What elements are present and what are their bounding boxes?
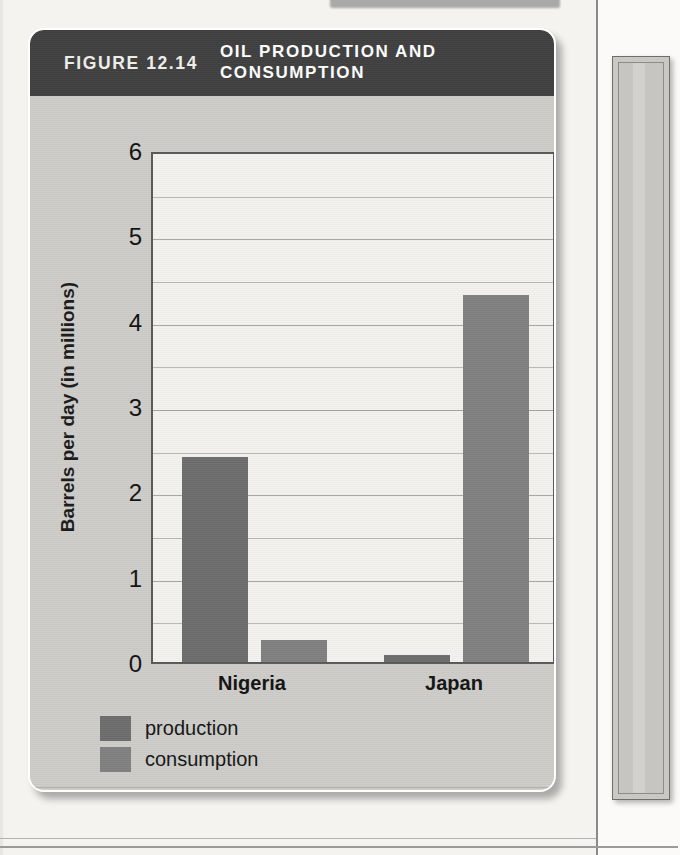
legend-swatch-production <box>100 716 131 741</box>
chart-legend: productionconsumption <box>100 716 258 778</box>
gridline <box>153 282 553 283</box>
bar-nigeria-consumption <box>261 640 327 662</box>
figure-number: FIGURE 12.14 <box>64 53 198 74</box>
page-bottom-rule <box>0 846 678 848</box>
bar-japan-consumption <box>463 295 529 662</box>
legend-label-production: production <box>145 717 238 740</box>
plot-wrapper <box>151 152 555 664</box>
legend-item-production: production <box>100 716 258 741</box>
figure-title: OIL PRODUCTION AND CONSUMPTION <box>220 42 500 83</box>
plot-area <box>151 152 555 664</box>
legend-swatch-consumption <box>100 747 131 772</box>
source-divider <box>30 787 554 788</box>
legend-item-consumption: consumption <box>100 747 258 772</box>
y-tick-label: 5 <box>102 223 142 251</box>
x-label-nigeria: Nigeria <box>218 672 286 695</box>
margin-sidebar-inner <box>618 62 664 794</box>
y-tick-label: 2 <box>102 479 142 507</box>
y-axis-title: Barrels per day (in millions) <box>57 257 79 557</box>
y-tick-label: 0 <box>102 650 142 678</box>
figure-header: FIGURE 12.14 OIL PRODUCTION AND CONSUMPT… <box>30 30 554 96</box>
cropped-headline-above <box>330 0 560 8</box>
y-tick-label: 6 <box>102 138 142 166</box>
y-tick-label: 4 <box>102 309 142 337</box>
y-tick-label: 3 <box>102 394 142 422</box>
margin-sidebar-box <box>612 56 670 800</box>
figure-card: FIGURE 12.14 OIL PRODUCTION AND CONSUMPT… <box>28 28 556 792</box>
page-bottom-rule-thin <box>0 838 596 839</box>
chart-region: Barrels per day (in millions) 0123456 Ni… <box>30 96 554 790</box>
bar-japan-production <box>384 655 450 662</box>
bar-nigeria-production <box>182 457 248 662</box>
gridline <box>153 197 553 198</box>
x-label-japan: Japan <box>425 672 483 695</box>
gridline <box>153 239 553 240</box>
legend-label-consumption: consumption <box>145 748 258 771</box>
y-tick-label: 1 <box>102 565 142 593</box>
